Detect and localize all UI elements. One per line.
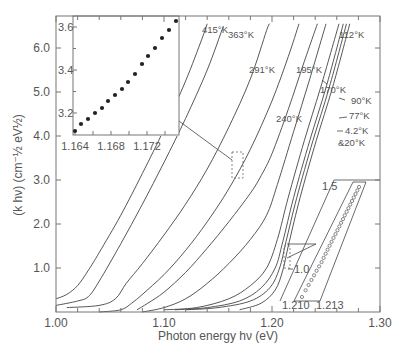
inset2-circle <box>336 229 339 232</box>
inset1-dot <box>160 36 164 40</box>
inset2-circle <box>345 210 348 213</box>
inset1-dot <box>106 99 110 103</box>
inset1-dot <box>113 93 117 97</box>
y-tick-label: 1.0 <box>33 261 50 275</box>
inset2-circle <box>343 214 346 217</box>
inset1-x-tick-label: 1.168 <box>97 140 125 152</box>
y-tick-label: 5.0 <box>33 85 50 99</box>
label-leader <box>339 117 347 118</box>
inset1-dot <box>133 72 137 76</box>
y-tick-label: 2.0 <box>33 217 50 231</box>
inset2-circle <box>326 248 329 251</box>
inset1-dot <box>126 80 130 84</box>
inset2-circle <box>315 269 318 272</box>
inset2-circle <box>350 199 353 202</box>
inset1-dot <box>73 129 77 133</box>
inset2-circle <box>356 189 359 192</box>
inset2-circle <box>318 265 321 268</box>
inset2-circle <box>341 218 344 221</box>
temp-label: 170°K <box>320 84 347 95</box>
inset2-circle <box>313 274 316 277</box>
inset2-circle <box>354 192 357 195</box>
inset2-circle <box>349 203 352 206</box>
inset2-circle <box>340 221 343 224</box>
inset1-x-tick-label: 1.172 <box>133 140 161 152</box>
temp-label: 195°K <box>296 64 323 75</box>
inset-open-circles: 1.51.01.2101.213 <box>280 180 380 311</box>
y-tick-label: 4.0 <box>33 129 50 143</box>
inset1-dot <box>86 117 90 121</box>
inset1-dot <box>167 28 171 32</box>
inset2-circle <box>304 289 307 292</box>
temp-label: 4.2°K <box>345 125 369 136</box>
inset1-dot <box>174 19 178 23</box>
temp-label: 112°K <box>339 29 365 40</box>
x-axis-label: Photon energy hν (eV) <box>158 329 278 343</box>
inset1-y-tick-label: 3.2 <box>58 107 73 119</box>
inset2-y-label-1.0: 1.0 <box>294 263 309 275</box>
x-tick-label: 1.30 <box>368 316 392 330</box>
inset2-leader <box>287 244 316 258</box>
inset2-circle <box>330 240 333 243</box>
temp-label: 363°K <box>228 29 255 40</box>
inset2-circle <box>322 256 325 259</box>
y-tick-label: 3.0 <box>33 173 50 187</box>
inset2-circle <box>328 244 331 247</box>
inset1-dot <box>100 106 104 110</box>
x-tick-label: 1.10 <box>152 316 176 330</box>
temp-label: &20°K <box>338 137 366 148</box>
inset2-circle <box>347 207 350 210</box>
temp-label: 415°K <box>202 24 229 35</box>
inset2-circle <box>352 196 355 199</box>
inset1-dot <box>79 122 83 126</box>
inset2-circle <box>310 278 313 281</box>
inset2-circle <box>357 185 360 188</box>
x-tick-label: 1.00 <box>44 316 68 330</box>
inset2-circle <box>324 252 327 255</box>
inset1-leader <box>179 121 232 160</box>
temp-label: 77°K <box>349 110 370 121</box>
inset2-circle <box>332 236 335 239</box>
chart: 1.51.01.2101.213 1.1641.1681.1723.23.43.… <box>0 0 407 361</box>
inset2-circle <box>307 283 310 286</box>
inset1-y-tick-label: 3.6 <box>58 21 73 33</box>
inset2-circle <box>334 233 337 236</box>
inset2-circle <box>320 261 323 264</box>
inset2-x-label-1: 1.210 <box>282 299 310 311</box>
y-axis-label: (k hν) (cm⁻½ eV½) <box>11 114 25 216</box>
label-leader <box>339 98 345 100</box>
temp-label: 240°K <box>276 113 303 124</box>
inset2-circle <box>338 225 341 228</box>
inset1-dot <box>120 87 124 91</box>
inset1-dot <box>153 46 157 50</box>
temp-label: 291°K <box>249 64 276 75</box>
inset2-x-label-2: 1.213 <box>316 299 344 311</box>
x-tick-label: 1.20 <box>260 316 284 330</box>
temp-label: 90°K <box>351 95 372 106</box>
y-tick-label: 6.0 <box>33 41 50 55</box>
inset1-x-tick-label: 1.164 <box>61 140 89 152</box>
inset1-dot <box>140 62 144 66</box>
inset1-y-tick-label: 3.4 <box>58 64 73 76</box>
inset2-y-label-1.5: 1.5 <box>322 180 337 192</box>
inset1-dot <box>93 111 97 115</box>
inset1-dot <box>146 54 150 58</box>
